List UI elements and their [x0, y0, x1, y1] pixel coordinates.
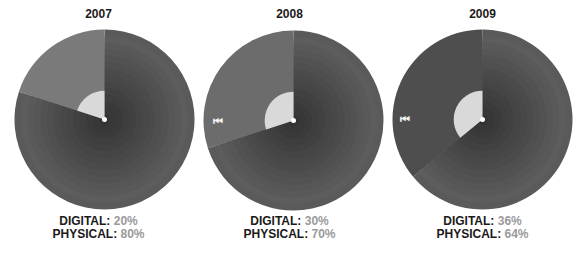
legend-physical: PHYSICAL: 64% [386, 228, 579, 241]
rewind-icon: ⏮ [213, 115, 221, 128]
chart-panel-2009: 2009 ⏮ DIGITAL: 36% PHYSICAL: 64% [386, 0, 579, 255]
chart-title: 2009 [386, 7, 579, 21]
pie-graphic [391, 28, 574, 211]
legend: DIGITAL: 20% PHYSICAL: 80% [2, 215, 195, 241]
chart-panel-2008: 2008 ⏮ DIGITAL: 30% PHYSICAL: 70% [193, 0, 386, 255]
legend-physical: PHYSICAL: 80% [2, 228, 195, 241]
legend: DIGITAL: 30% PHYSICAL: 70% [193, 215, 386, 241]
legend: DIGITAL: 36% PHYSICAL: 64% [386, 215, 579, 241]
pie-chart [391, 28, 574, 211]
pie-graphic [202, 29, 385, 212]
pie-graphic [13, 28, 196, 211]
pie-chart [202, 29, 385, 212]
rewind-icon: ⏮ [400, 113, 408, 126]
chart-title: 2008 [193, 7, 386, 21]
legend-physical: PHYSICAL: 70% [193, 228, 386, 241]
chart-title: 2007 [2, 7, 195, 21]
pie-chart [13, 28, 196, 211]
chart-panel-2007: 2007 DIGITAL: 20% PHYSICAL: 80% [2, 0, 195, 255]
